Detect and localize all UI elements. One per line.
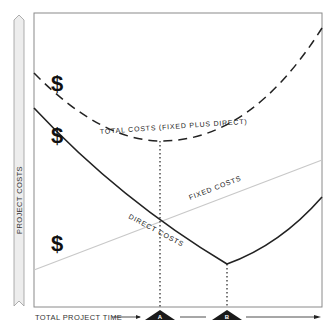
marker-b: B xyxy=(212,310,242,320)
x-axis-label: TOTAL PROJECT TIME xyxy=(35,313,122,322)
dollar-sign-high: $ xyxy=(51,71,63,96)
y-axis-label: PROJECT COSTS xyxy=(15,166,24,234)
cost-time-diagram: PROJECT COSTS TOTAL COSTS (FIXED PLUS DI… xyxy=(0,0,335,329)
y-axis-ribbon: PROJECT COSTS xyxy=(14,15,24,306)
fixed-costs-line xyxy=(34,160,322,270)
marker-a: A xyxy=(145,310,175,320)
marker-a-label: A xyxy=(158,314,163,320)
dollar-sign-low: $ xyxy=(51,231,63,256)
dollar-sign-mid: $ xyxy=(51,123,63,148)
total-costs-label: TOTAL COSTS (FIXED PLUS DIRECT) xyxy=(100,118,248,136)
plot-frame xyxy=(34,13,322,307)
fixed-costs-label: FIXED COSTS xyxy=(188,175,242,201)
marker-b-label: B xyxy=(225,314,230,320)
